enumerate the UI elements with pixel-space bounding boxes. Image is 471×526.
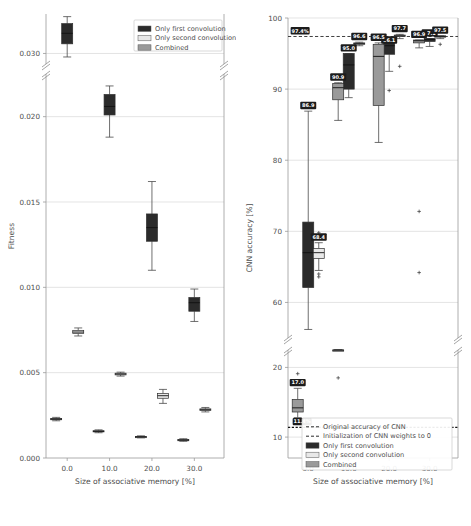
data-label: 96.5 (372, 34, 385, 40)
svg-text:70: 70 (273, 227, 283, 236)
legend-label: Only second convolution (155, 34, 236, 42)
data-label: 68.4 (313, 234, 326, 240)
svg-text:20.0: 20.0 (144, 464, 160, 473)
data-label: 86.9 (302, 102, 315, 108)
axis-break-mark (284, 338, 292, 344)
fitness-axes: 0.0300.0200.0150.0100.0050.0000.010.020.… (7, 14, 228, 486)
data-label: 17.0 (292, 379, 305, 385)
figure-root: 0.0300.0200.0150.0100.0050.0000.010.020.… (0, 0, 471, 526)
fitness-panel: 0.0300.0200.0150.0100.0050.0000.010.020.… (0, 0, 236, 526)
svg-text:20: 20 (273, 363, 283, 372)
box (333, 83, 344, 99)
axis-break-mark (220, 64, 228, 70)
legend-swatch (138, 26, 151, 31)
svg-text:0.030: 0.030 (19, 49, 40, 58)
legend-label: Only first convolution (323, 442, 394, 450)
boxes-upper (303, 34, 446, 329)
box (104, 94, 115, 114)
y-axis-label: CNN accuracy [%] (245, 204, 254, 273)
fitness-legend: Only first convolutionOnly second convol… (134, 20, 236, 52)
y-axis-label: Fitness (7, 223, 16, 249)
box (303, 222, 314, 287)
legend-swatch (306, 443, 319, 448)
svg-text:0.015: 0.015 (19, 198, 40, 207)
legend-label: Combined (323, 461, 357, 469)
data-label: 96.6 (353, 33, 366, 39)
x-axis-label: Size of associative memory [%] (75, 477, 195, 486)
axis-spine-lower (46, 74, 224, 458)
box (373, 44, 384, 105)
svg-text:0.000: 0.000 (19, 454, 40, 463)
svg-text:10.0: 10.0 (102, 464, 118, 473)
axis-break-mark (454, 338, 462, 344)
svg-text:0.020: 0.020 (19, 112, 40, 121)
accuracy-legend: Original accuracy of CNNInitialization o… (302, 418, 452, 470)
box (313, 248, 324, 258)
data-label: 95.0 (343, 45, 356, 51)
box (292, 399, 303, 412)
data-label: 97.4% (291, 28, 308, 34)
svg-text:10: 10 (273, 433, 283, 442)
legend-label: Original accuracy of CNN (323, 423, 406, 431)
legend-label: Only first convolution (155, 25, 226, 33)
svg-text:60: 60 (273, 298, 283, 307)
svg-text:0.010: 0.010 (19, 283, 40, 292)
boxes-lower (51, 86, 211, 441)
legend-swatch (306, 462, 319, 467)
legend-swatch (306, 452, 319, 457)
svg-text:0.005: 0.005 (19, 368, 40, 377)
accuracy-plot-canvas: 1009080706020100.010.020.030.0Size of as… (236, 0, 471, 526)
svg-text:90: 90 (273, 85, 283, 94)
x-axis-label: Size of associative memory [%] (313, 477, 433, 486)
data-label: 96.9 (413, 31, 426, 37)
boxes-upper (62, 17, 73, 57)
box (384, 42, 395, 54)
data-label: 97.7 (394, 25, 407, 31)
data-label: 90.9 (332, 74, 345, 80)
legend-label: Initialization of CNN weights to 0 (323, 432, 431, 440)
svg-text:0.0: 0.0 (61, 464, 73, 473)
box (343, 54, 354, 90)
svg-text:100: 100 (268, 14, 282, 23)
svg-text:80: 80 (273, 156, 283, 165)
fitness-plot-canvas: 0.0300.0200.0150.0100.0050.0000.010.020.… (0, 0, 236, 526)
accuracy-panel: 1009080706020100.010.020.030.0Size of as… (236, 0, 471, 526)
legend-swatch (138, 45, 151, 50)
legend-label: Combined (155, 44, 189, 52)
box (189, 298, 200, 312)
axis-break-mark (42, 64, 50, 70)
legend-swatch (138, 35, 151, 40)
svg-text:30.0: 30.0 (186, 464, 202, 473)
data-label: 97.5 (434, 27, 447, 33)
legend-label: Only second convolution (323, 451, 404, 459)
